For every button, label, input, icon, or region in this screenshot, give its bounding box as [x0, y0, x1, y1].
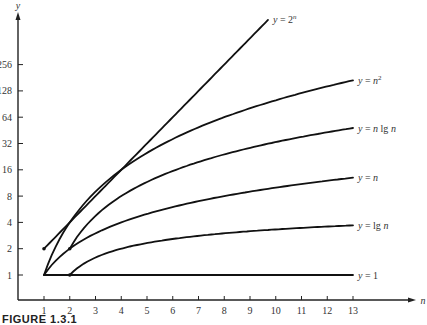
y-tick-label: 16 [2, 164, 12, 175]
figure-caption: FIGURE 1.3.1 [2, 313, 77, 325]
y-tick-label: 8 [7, 191, 12, 202]
chart-area: y n 12345678910111213 1248163264128256 y… [0, 0, 427, 325]
y-tick-label: 4 [7, 217, 12, 228]
x-tick-label: 12 [322, 305, 332, 316]
y-axis-label: y [15, 0, 21, 11]
y-ticks: 1248163264128256 [0, 59, 23, 280]
x-tick-label: 7 [196, 305, 201, 316]
curve-labels: y = 2ny = n2y = n lg ny = ny = lg ny = 1 [272, 13, 396, 280]
x-tick-label: 5 [145, 305, 150, 316]
y-tick-label: 128 [0, 85, 12, 96]
start-point-marker [42, 247, 46, 251]
curve-label-y-2-n: y = 2n [272, 13, 297, 25]
x-tick-label: 10 [271, 305, 281, 316]
curve-label-y-n-lg-n: y = n lg n [357, 123, 396, 134]
curve-y-lg-n [70, 225, 353, 275]
x-tick-label: 9 [248, 305, 253, 316]
y-axis-arrow-icon [16, 12, 21, 20]
curve-y-n-lg-n [70, 128, 353, 249]
curve-label-y-n-2: y = n2 [357, 74, 382, 86]
curve-label-y-1: y = 1 [357, 270, 378, 281]
y-tick-label: 256 [0, 59, 12, 70]
x-tick-label: 13 [348, 305, 358, 316]
y-tick-label: 2 [7, 243, 12, 254]
x-tick-label: 8 [222, 305, 227, 316]
x-axis-label: n [421, 295, 426, 306]
x-tick-label: 3 [93, 305, 98, 316]
axes: y n [15, 0, 426, 306]
curve-y-n-2 [44, 80, 353, 275]
y-tick-label: 1 [7, 270, 12, 281]
x-tick-label: 4 [119, 305, 124, 316]
x-tick-label: 11 [297, 305, 307, 316]
x-ticks: 12345678910111213 [42, 296, 359, 316]
x-axis-arrow-icon [408, 298, 416, 303]
curve-label-y-n: y = n [357, 172, 378, 183]
y-tick-label: 32 [2, 138, 12, 149]
x-tick-label: 6 [170, 305, 175, 316]
y-tick-label: 64 [2, 112, 12, 123]
curves [42, 20, 353, 277]
curve-label-y-lg-n: y = lg n [357, 220, 388, 231]
curve-y-2-n [44, 20, 268, 249]
